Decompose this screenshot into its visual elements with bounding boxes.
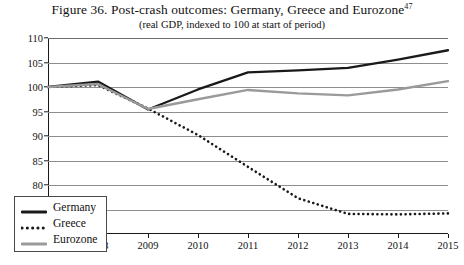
y-tick-label: 110 <box>28 33 43 44</box>
series-line-greece <box>48 85 448 214</box>
x-tick-mark <box>448 234 449 238</box>
x-tick-mark <box>198 234 199 238</box>
title-block: Figure 36. Post-crash outcomes: Germany,… <box>0 2 464 30</box>
x-tick-label: 2012 <box>288 240 309 251</box>
x-tick-mark <box>298 234 299 238</box>
chart-title-text: Figure 36. Post-crash outcomes: Germany,… <box>51 2 404 17</box>
legend-label-eurozone: Eurozone <box>53 234 97 246</box>
legend-item-eurozone[interactable]: Eurozone <box>21 233 97 247</box>
chart-legend: GermanyGreeceEurozone <box>14 196 107 252</box>
legend-swatch-eurozone <box>21 235 47 245</box>
x-tick-mark <box>398 234 399 238</box>
x-tick-label: 2015 <box>438 240 459 251</box>
legend-item-germany[interactable]: Germany <box>21 201 97 215</box>
y-tick-label: 100 <box>27 82 43 93</box>
legend-swatch-germany <box>21 203 47 213</box>
legend-label-germany: Germany <box>53 202 96 214</box>
y-tick-label: 105 <box>27 57 43 68</box>
y-tick-label: 85 <box>33 155 43 166</box>
legend-swatch-greece <box>21 219 47 229</box>
chart-title: Figure 36. Post-crash outcomes: Germany,… <box>0 2 464 18</box>
series-layer <box>48 38 448 234</box>
x-tick-mark <box>248 234 249 238</box>
chart-title-footnote-marker: 47 <box>404 2 412 11</box>
x-tick-mark <box>148 234 149 238</box>
figure-container: Figure 36. Post-crash outcomes: Germany,… <box>0 0 464 265</box>
x-tick-mark <box>348 234 349 238</box>
chart-subtitle: (real GDP, indexed to 100 at start of pe… <box>0 19 464 30</box>
series-line-germany <box>48 50 448 109</box>
x-tick-label: 2010 <box>188 240 209 251</box>
x-tick-label: 2013 <box>338 240 359 251</box>
legend-item-greece[interactable]: Greece <box>21 217 97 231</box>
y-tick-label: 80 <box>33 180 43 191</box>
legend-label-greece: Greece <box>53 218 86 230</box>
x-tick-label: 2014 <box>388 240 409 251</box>
x-tick-label: 2011 <box>238 240 258 251</box>
y-tick-label: 90 <box>33 131 43 142</box>
plot-area: 707580859095100105110 200720082009201020… <box>48 38 448 234</box>
y-tick-label: 95 <box>33 106 43 117</box>
x-tick-label: 2009 <box>138 240 159 251</box>
series-line-eurozone <box>48 81 448 109</box>
